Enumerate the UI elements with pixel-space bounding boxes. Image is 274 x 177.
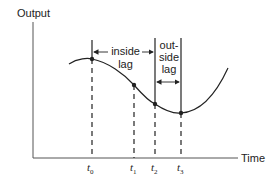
lag-diagram bbox=[0, 0, 274, 177]
output-curve bbox=[69, 59, 228, 114]
y-axis-label: Output bbox=[17, 8, 50, 19]
time-mark-t2: t2 bbox=[151, 162, 158, 176]
inside-lag-label: inside lag bbox=[109, 46, 142, 70]
inside-lag-line2: lag bbox=[109, 59, 142, 70]
time-mark-t0: t0 bbox=[87, 162, 94, 176]
point-t1 bbox=[132, 83, 136, 87]
point-t0 bbox=[90, 57, 94, 61]
point-t3 bbox=[179, 111, 183, 115]
outside-lag-label: out- side lag bbox=[156, 40, 182, 75]
time-mark-t1: t1 bbox=[130, 162, 137, 176]
point-t2 bbox=[153, 102, 157, 106]
time-mark-t3: t3 bbox=[177, 162, 184, 176]
x-axis-label: Time bbox=[241, 153, 265, 164]
inside-lag-line1: inside bbox=[109, 46, 142, 57]
outside-lag-line3: lag bbox=[156, 64, 182, 75]
outside-lag-line2: side bbox=[156, 52, 182, 63]
outside-lag-line1: out- bbox=[156, 40, 182, 51]
